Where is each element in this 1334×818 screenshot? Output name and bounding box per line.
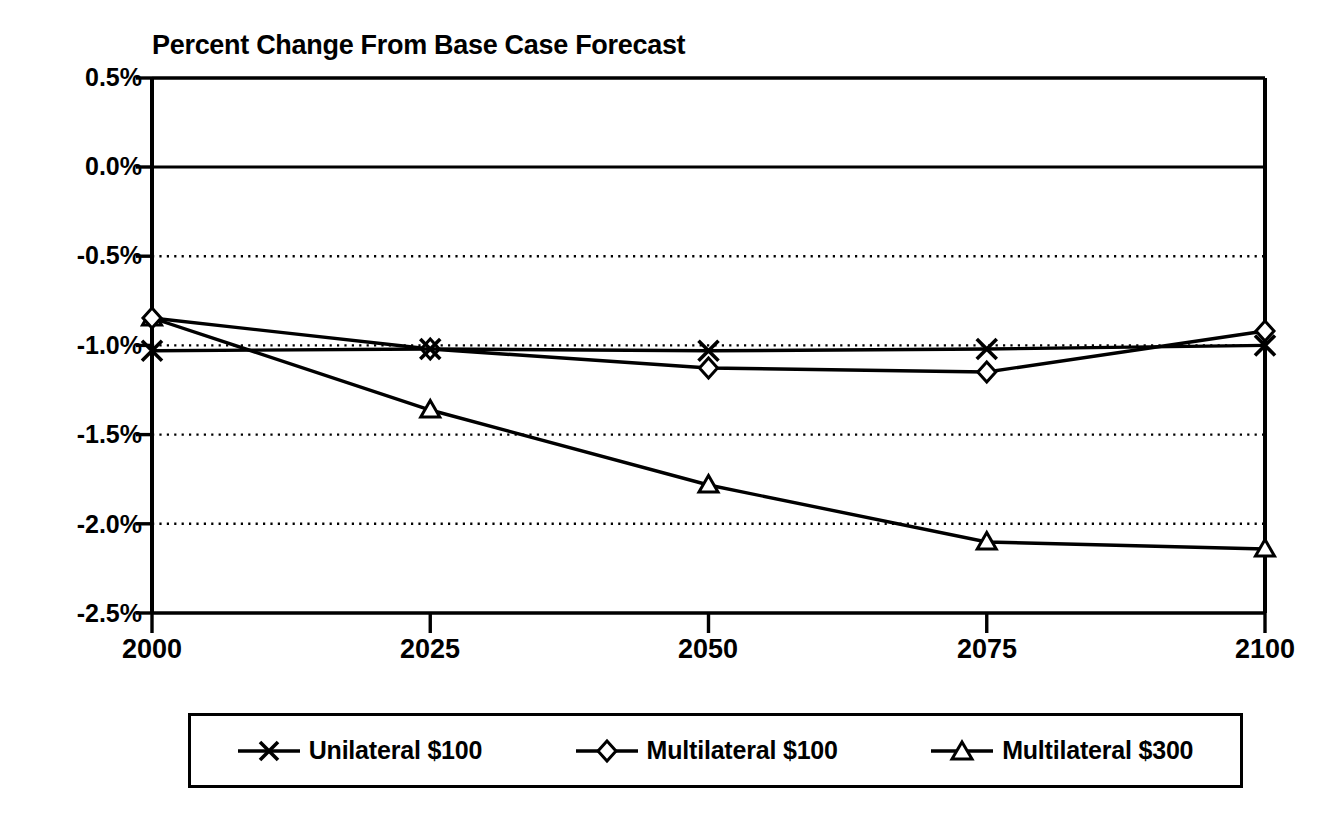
- x-tick-label: 2025: [360, 634, 500, 665]
- chart-figure: Percent Change From Base Case Forecast 0…: [0, 0, 1334, 818]
- legend-marker-triangle-icon: [931, 738, 993, 764]
- legend-entry-unilateral-100: Unilateral $100: [238, 736, 483, 765]
- legend-marker-x-icon: [238, 738, 300, 764]
- legend-label: Unilateral $100: [309, 736, 483, 765]
- y-axis-ticks: [136, 78, 152, 613]
- x-tick-label: 2000: [82, 634, 222, 665]
- x-axis-ticks: [152, 613, 1265, 633]
- legend-marker-diamond-icon: [576, 738, 638, 764]
- legend-label: Multilateral $300: [1002, 736, 1193, 765]
- chart-legend: Unilateral $100 Multilateral $100 Multil…: [188, 713, 1243, 788]
- legend-entry-multilateral-100: Multilateral $100: [576, 736, 838, 765]
- legend-label: Multilateral $100: [647, 736, 838, 765]
- x-tick-label: 2075: [917, 634, 1057, 665]
- x-tick-label: 2050: [638, 634, 778, 665]
- legend-entry-multilateral-300: Multilateral $300: [931, 736, 1193, 765]
- x-tick-label: 2100: [1195, 634, 1334, 665]
- plot-area: [0, 0, 1334, 700]
